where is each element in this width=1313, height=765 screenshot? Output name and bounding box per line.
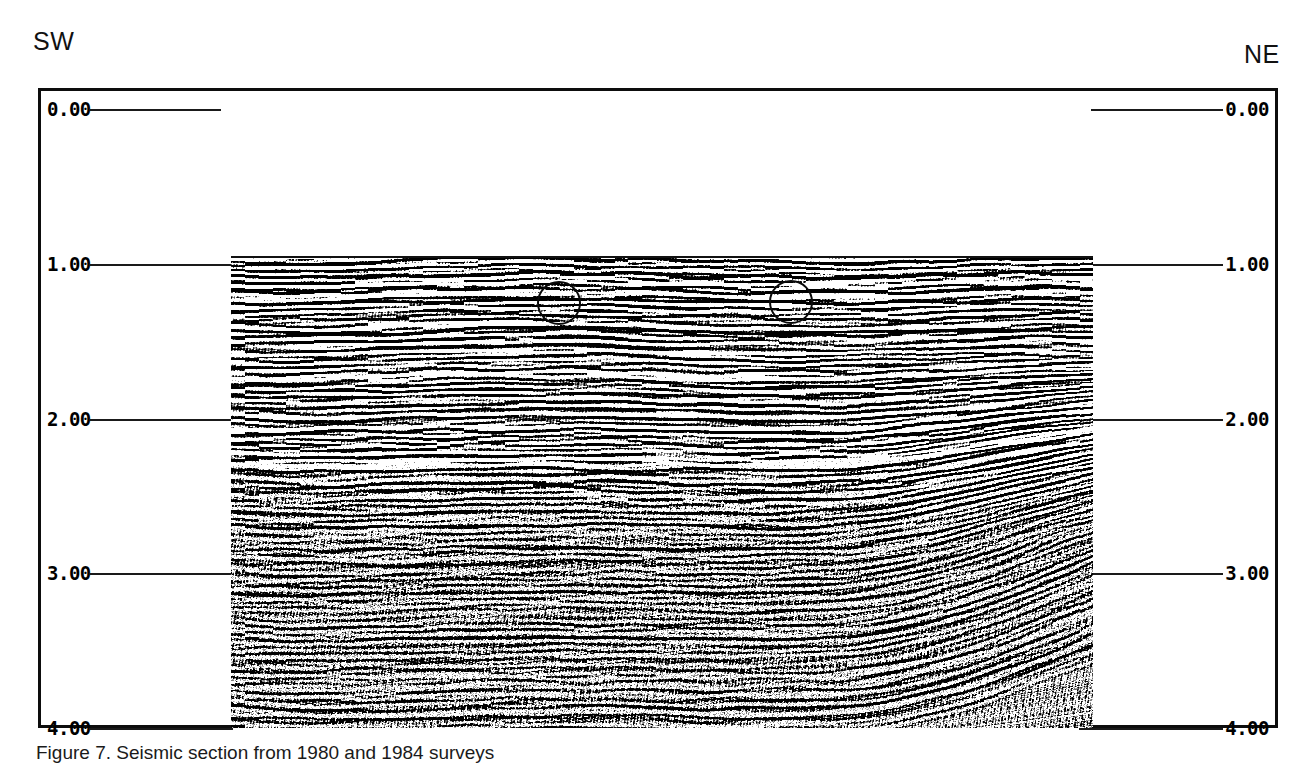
circle-annotation-2 <box>769 280 813 324</box>
y-axis-right-tick-1 <box>1079 264 1223 266</box>
seismic-data-panel <box>231 256 1093 728</box>
orientation-label-ne: NE <box>1244 40 1280 69</box>
y-axis-left-tick-4 <box>89 728 233 730</box>
y-axis-left-label-1: 1.00 <box>47 255 91 274</box>
y-axis-left-tick-1 <box>89 264 233 266</box>
y-axis-right-label-0: 0.00 <box>1225 100 1269 119</box>
y-axis-right-tick-0 <box>1091 109 1223 111</box>
y-axis-right-label-4: 4.00 <box>1225 719 1269 738</box>
seismic-wiggle-trace-image <box>231 256 1093 728</box>
seismic-plot-frame: 0.00 1.00 2.00 3.00 4.00 0.00 1.00 2.00 … <box>38 88 1278 728</box>
y-axis-right-tick-2 <box>1079 419 1223 421</box>
figure-caption: Figure 7. Seismic section from 1980 and … <box>36 742 1286 764</box>
y-axis-right-tick-3 <box>1079 573 1223 575</box>
y-axis-left-label-2: 2.00 <box>47 410 91 429</box>
y-axis-left-label-3: 3.00 <box>47 564 91 583</box>
y-axis-right-label-2: 2.00 <box>1225 410 1269 429</box>
y-axis-left-tick-3 <box>89 573 233 575</box>
circle-annotation-1 <box>537 281 581 325</box>
y-axis-left-tick-2 <box>89 419 233 421</box>
y-axis-left-label-4: 4.00 <box>47 719 91 738</box>
y-axis-right-label-3: 3.00 <box>1225 564 1269 583</box>
y-axis-left-label-0: 0.00 <box>47 100 91 119</box>
y-axis-left-tick-0 <box>89 109 221 111</box>
y-axis-right-label-1: 1.00 <box>1225 255 1269 274</box>
orientation-label-sw: SW <box>33 27 74 56</box>
y-axis-right-tick-4 <box>1079 728 1223 730</box>
